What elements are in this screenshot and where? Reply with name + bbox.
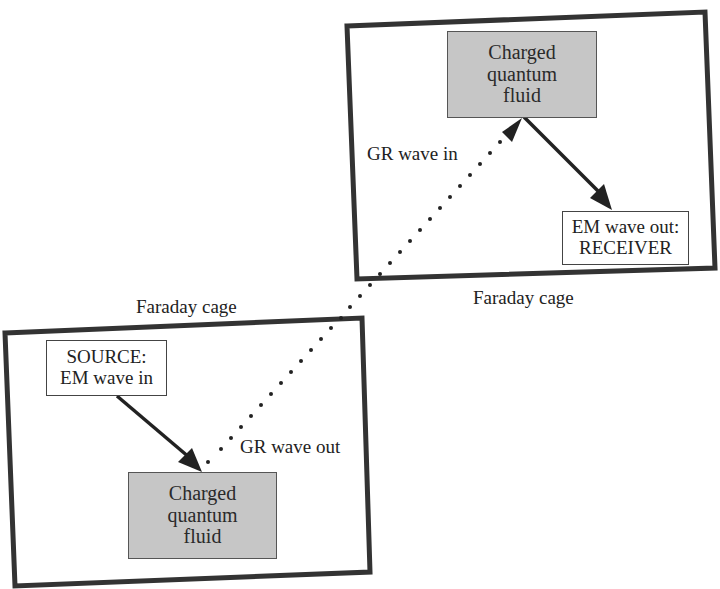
bottom-faraday-cage-label: Faraday cage <box>136 296 237 318</box>
top-fluid-line-2: quantum <box>487 64 557 86</box>
gr-wave-arrowhead-icon <box>502 118 522 142</box>
bottom-fluid-line-2: quantum <box>168 505 238 527</box>
top-fluid-line-1: Charged <box>487 42 557 64</box>
receiver-line-1: EM wave out: <box>572 217 680 238</box>
bottom-fluid-line-3: fluid <box>168 526 238 548</box>
diagram-canvas <box>0 0 720 589</box>
source-box: SOURCE: EM wave in <box>46 340 167 396</box>
top-faraday-cage-label: Faraday cage <box>473 287 574 309</box>
source-line-1: SOURCE: <box>60 347 153 368</box>
receiver-line-2: RECEIVER <box>572 238 680 259</box>
top-charged-quantum-fluid-box: Charged quantum fluid <box>447 31 597 118</box>
receiver-box: EM wave out: RECEIVER <box>562 211 689 265</box>
source-line-2: EM wave in <box>60 368 153 389</box>
top-fluid-line-3: fluid <box>487 85 557 107</box>
fluid-to-receiver-arrow-shaft <box>524 117 602 195</box>
source-to-fluid-arrow-shaft <box>117 396 190 458</box>
bottom-charged-quantum-fluid-box: Charged quantum fluid <box>128 472 277 559</box>
bottom-fluid-line-1: Charged <box>168 483 238 505</box>
gr-wave-in-label: GR wave in <box>367 143 458 165</box>
gr-wave-out-label: GR wave out <box>240 436 340 458</box>
